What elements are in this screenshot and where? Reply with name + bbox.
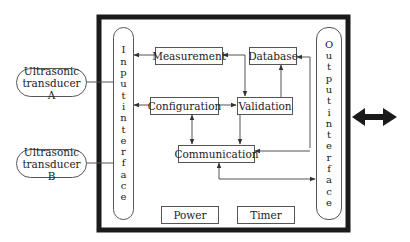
input-interface-letter: u [120,78,126,89]
input-interface-letter: n [120,112,126,123]
output-interface-letter: t [327,95,331,106]
output-interface-letter: t [327,61,331,72]
input-interface-letter: n [120,56,126,67]
measurement-block: Measurement [155,47,223,65]
input-interface: Inputinterface [113,27,134,220]
transducer-b-line1: Ultrasonic [17,146,86,158]
input-interface-letter: i [122,101,125,112]
communication-block: Communication [178,145,255,163]
configuration-block: Configuration [150,97,219,115]
output-interface-letter: n [326,118,332,129]
system-frame [99,17,348,230]
input-interface-letter: e [121,191,127,202]
output-interface-letter: r [327,152,332,163]
input-interface-letter: r [121,146,126,157]
output-interface-letter: i [327,107,330,118]
ultrasonic-transducer-a: Ultrasonic transducer A [16,68,87,97]
output-interface-letter: e [326,197,332,208]
output-interface-letter: t [327,129,331,140]
input-interface-letter: p [120,67,126,78]
timer-block: Timer [237,206,295,224]
output-interface-letter: c [326,186,332,197]
input-interface-letter: e [121,135,127,146]
output-interface-letter: u [326,84,332,95]
power-block: Power [161,206,219,224]
input-interface-letter: a [121,169,127,180]
output-interface-letter: a [326,174,332,185]
input-interface-letter: t [121,124,125,135]
output-interface-letter: f [327,163,331,174]
external-io-double-arrow [352,108,397,126]
input-interface-letter: t [121,90,125,101]
ultrasonic-transducer-b: Ultrasonic transducer B [16,149,87,178]
validation-block: Validation [237,97,293,115]
output-interface-letter: p [326,73,332,84]
output-interface: Outputinterface [316,27,342,220]
transducer-a-line1: Ultrasonic [17,65,86,77]
database-block: Database [249,47,297,65]
output-interface-letter: u [326,50,332,61]
input-interface-letter: c [121,180,127,191]
transducer-a-line2: transducer A [17,77,86,101]
input-interface-letter: f [122,157,126,168]
output-interface-letter: e [326,140,332,151]
transducer-b-line2: transducer B [17,158,86,182]
output-interface-letter: O [325,39,333,50]
input-interface-letter: I [122,44,126,55]
